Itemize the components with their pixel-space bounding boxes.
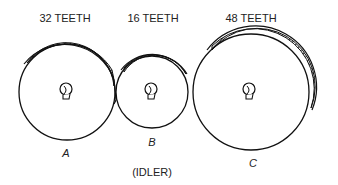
idler-label: (IDLER) [132, 166, 172, 178]
gear-a-teeth-label: 32 TEETH [39, 12, 90, 24]
gear-b-letter: B [148, 136, 155, 148]
shaft-icon [243, 83, 255, 99]
gear-b-teeth-label: 16 TEETH [127, 12, 178, 24]
shaft-icon [145, 83, 157, 99]
gear-c-letter: C [249, 157, 257, 169]
gear-c-teeth-label: 48 TEETH [225, 12, 276, 24]
gear-a [19, 43, 116, 140]
gear-c [193, 26, 317, 150]
gear-a-letter: A [61, 147, 69, 159]
gear-train-diagram: 32 TEETH 16 TEETH 48 TEETH A B C (IDLER) [0, 0, 338, 185]
shaft-icon [60, 83, 72, 99]
gear-b-idler [116, 54, 188, 128]
